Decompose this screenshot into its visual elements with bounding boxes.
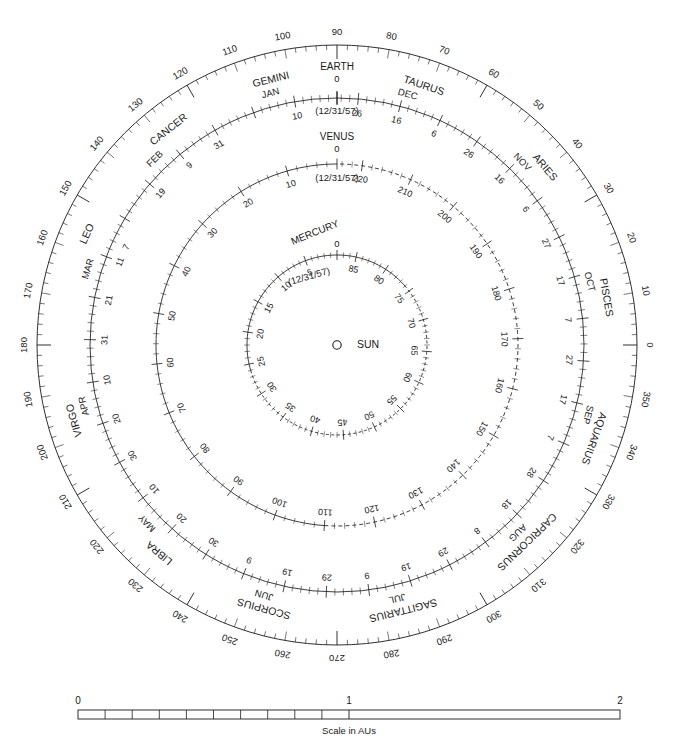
- tick-mark: [461, 129, 465, 135]
- tick-mark: [384, 418, 387, 423]
- venus-day-label: 20: [241, 196, 255, 210]
- venus-day-label: 80: [198, 441, 212, 455]
- earth-day-label: 19: [400, 561, 413, 574]
- tick-mark: [67, 474, 71, 476]
- tick-mark: [275, 52, 276, 57]
- tick-mark: [624, 293, 633, 295]
- earth-day-label: 11: [113, 256, 126, 268]
- tick-mark: [446, 121, 449, 127]
- ring-arc: [324, 164, 518, 526]
- tick-mark: [136, 195, 142, 199]
- tick-mark: [480, 593, 487, 605]
- tick-mark: [256, 387, 261, 390]
- mercury-day-label: 55: [385, 393, 399, 407]
- zodiac-degree-label: 180: [18, 337, 29, 353]
- tick-mark: [88, 510, 92, 513]
- tick-mark: [437, 63, 440, 71]
- tick-mark: [621, 262, 626, 263]
- tick-mark: [152, 577, 155, 581]
- tick-mark: [248, 184, 251, 189]
- tick-mark: [610, 445, 618, 448]
- tick-mark: [611, 233, 616, 235]
- tick-mark: [264, 631, 265, 636]
- mercury-ring-title: MERCURY: [289, 218, 340, 247]
- earth-day-label: 29: [436, 545, 449, 558]
- tick-mark: [618, 252, 623, 254]
- earth-day-label: 31: [212, 138, 226, 152]
- tick-mark: [229, 119, 232, 125]
- tick-mark: [237, 495, 240, 500]
- tick-mark: [39, 376, 44, 377]
- tick-mark: [101, 527, 105, 530]
- tick-mark: [474, 137, 481, 147]
- tick-mark: [72, 483, 76, 485]
- tick-mark: [169, 590, 172, 594]
- tick-mark: [410, 295, 415, 298]
- tick-mark: [502, 96, 505, 100]
- earth-day-label: 16: [493, 172, 507, 186]
- earth-day-label: 7: [563, 317, 573, 323]
- tick-mark: [343, 430, 344, 440]
- venus-day-label: 110: [318, 507, 333, 518]
- tick-mark: [438, 115, 443, 126]
- zodiac-degree-label: 0: [645, 342, 656, 347]
- tick-mark: [354, 522, 355, 528]
- tick-mark: [582, 177, 586, 180]
- tick-mark: [418, 57, 419, 62]
- zodiac-degree-label: 310: [529, 576, 548, 595]
- tick-mark: [227, 487, 233, 496]
- tick-mark: [358, 93, 359, 105]
- tick-mark: [183, 537, 187, 543]
- tick-mark: [59, 456, 64, 458]
- tick-mark: [569, 160, 573, 163]
- tick-mark: [545, 472, 551, 476]
- tick-mark: [362, 429, 364, 434]
- zodiac-degree-label: 280: [383, 647, 401, 661]
- tick-mark: [436, 192, 439, 197]
- tick-mark: [368, 47, 369, 52]
- zodiac-degree-label: 210: [56, 492, 73, 511]
- tick-mark: [203, 549, 209, 559]
- tick-mark: [287, 267, 290, 272]
- tick-mark: [463, 554, 467, 560]
- scale-bar-svg: 012Scale in AUs: [0, 694, 683, 746]
- venus-day-label: 90: [231, 474, 245, 488]
- tick-mark: [254, 299, 263, 304]
- tick-mark: [500, 416, 505, 418]
- tick-mark: [234, 618, 237, 626]
- tick-mark: [129, 557, 132, 561]
- scale-max-label: 2: [617, 695, 623, 706]
- tick-mark: [197, 547, 201, 553]
- earth-day-label: 31: [99, 335, 109, 345]
- venus-day-label: 210: [396, 184, 414, 199]
- tick-mark: [180, 438, 185, 441]
- tick-mark: [611, 456, 616, 458]
- mercury-day-label: 35: [283, 400, 297, 414]
- earth-day-label: 20: [175, 511, 189, 525]
- tick-mark: [136, 122, 139, 126]
- tick-mark: [577, 361, 589, 362]
- tick-mark: [490, 251, 495, 254]
- zodiac-constellation-label: PISCES: [598, 277, 617, 317]
- tick-mark: [39, 314, 44, 315]
- tick-mark: [293, 422, 296, 427]
- tick-mark: [422, 351, 432, 352]
- tick-mark: [618, 436, 623, 438]
- tick-mark: [94, 169, 98, 172]
- tick-mark: [623, 272, 628, 273]
- tick-mark: [626, 283, 631, 284]
- tick-mark: [490, 534, 494, 539]
- tick-mark: [405, 288, 413, 294]
- zodiac-degree-label: 130: [126, 95, 145, 114]
- earth-day-label: 10: [291, 110, 303, 122]
- tick-mark: [466, 75, 468, 79]
- venus-epoch-value: 0: [334, 143, 339, 154]
- tick-mark: [623, 416, 628, 417]
- tick-mark: [408, 54, 409, 59]
- earth-day-label: 28: [525, 466, 539, 480]
- earth-day-label: 18: [500, 497, 514, 511]
- sun-marker: [333, 341, 341, 349]
- tick-mark: [130, 482, 136, 486]
- tick-mark: [560, 152, 567, 158]
- venus-day-label: 70: [175, 401, 188, 414]
